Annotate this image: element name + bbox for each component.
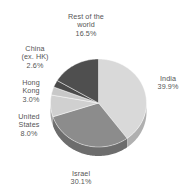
slice-label-israel: Israel 30.1% [52,161,110,190]
slice-label-hong-kong-name: Hong Kong [22,78,40,96]
slice-label-united-states-value: 8.0% [4,130,54,139]
pie-chart: India 39.9%Israel 30.1%United States 8.0… [0,0,191,190]
slice-label-united-states-name: United States [18,112,39,130]
slice-label-china-name: China (ex. HK) [21,44,48,62]
slice-label-rest-of-world-name: Rest of the world [68,12,104,30]
slice-label-israel-value: 30.1% [52,178,110,187]
slice-label-india: India 39.9% [147,66,189,100]
slice-label-united-states: United States 8.0% [4,104,54,147]
pie-top-faces: India 39.9%Israel 30.1%United States 8.0… [51,59,147,147]
slice-label-india-value: 39.9% [147,83,189,92]
